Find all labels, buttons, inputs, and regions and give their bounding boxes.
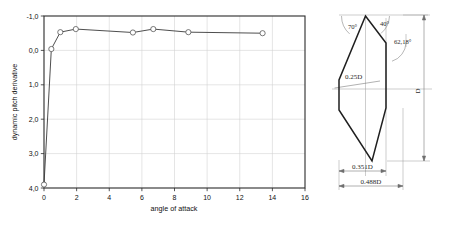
y-tick-label-0: -1,0 [26,13,38,20]
x-tick-label-8: 16 [301,194,309,201]
x-axis-title: angle of attack [151,204,198,213]
angle-6218-label: 62,18° [394,38,412,45]
data-point-2 [58,30,63,35]
x-tick-label-7: 14 [268,194,276,201]
y-axis-title: dynamic pitch derivative [10,64,19,141]
x-tick-label-0: 0 [42,194,46,201]
data-point-0 [41,182,46,187]
angle-40-label: 40° [380,20,390,27]
dynamic-pitch-derivative-plot: 0246810121416 -1,00,01,02,03,04,0 angle … [0,0,320,226]
data-point-3 [73,26,78,31]
dimension-arrows [335,15,426,188]
y-tick-label-4: 3,0 [29,150,39,157]
y-tick-label-5: 4,0 [29,185,39,192]
arrow-0488-right [398,184,403,187]
dim-0488D-label: 0.488D [361,178,382,186]
diagram-canvas: 70° 40° 62,18° 0.25D 0.351D 0.488D D [320,0,455,226]
angle-70-label: 70° [348,23,358,30]
y-tick-labels: -1,00,01,02,03,04,0 [26,13,38,192]
body-outline [339,16,386,161]
data-point-5 [151,26,156,31]
arrow-0488-left [339,184,344,187]
x-tick-label-3: 6 [140,194,144,201]
arc-6218 [392,43,406,61]
data-point-6 [186,30,191,35]
x-tick-label-6: 12 [236,194,244,201]
dim-D-label: D [414,88,422,93]
x-tick-label-1: 2 [75,194,79,201]
arrow-0351-right [381,169,386,172]
x-tick-label-4: 8 [173,194,177,201]
dim-0351D-label: 0.351D [352,163,373,171]
y-tick-label-2: 1,0 [29,81,39,88]
y-tick-label-3: 2,0 [29,116,39,123]
x-tick-labels: 0246810121416 [42,194,309,201]
data-point-1 [49,46,54,51]
x-tick-label-2: 4 [107,194,111,201]
construction-lines [332,15,432,190]
figure-root: 0246810121416 -1,00,01,02,03,04,0 angle … [0,0,455,226]
x-tick-label-5: 10 [203,194,211,201]
y-tick-label-1: 0,0 [29,47,39,54]
body-cross-section-diagram: 70° 40° 62,18° 0.25D 0.351D 0.488D D [320,0,455,226]
arrow-0351-left [339,169,344,172]
arrow-D-bottom [422,156,425,161]
leader-025D [335,81,381,88]
arrow-D-top [422,15,425,20]
chart-canvas: 0246810121416 -1,00,01,02,03,04,0 angle … [0,0,320,226]
dim-025D-label: 0.25D [345,73,362,81]
data-point-4 [130,30,135,35]
data-point-7 [260,31,265,36]
